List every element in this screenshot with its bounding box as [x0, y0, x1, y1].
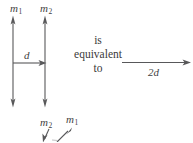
- equivalence-figure: m1 m2 d is equivalent to 2d m2 m1: [0, 0, 193, 142]
- bottom-cropped-stroke: [52, 140, 58, 141]
- m2-bottom-arrow: [42, 129, 49, 142]
- left-vector: [11, 16, 16, 108]
- m1-bottom-arrow: [57, 128, 72, 143]
- distance-arrow-d: [13, 60, 47, 66]
- right-vector: [43, 16, 48, 108]
- distance-arrow-2d: [122, 59, 191, 65]
- vector-graphics: [0, 0, 193, 142]
